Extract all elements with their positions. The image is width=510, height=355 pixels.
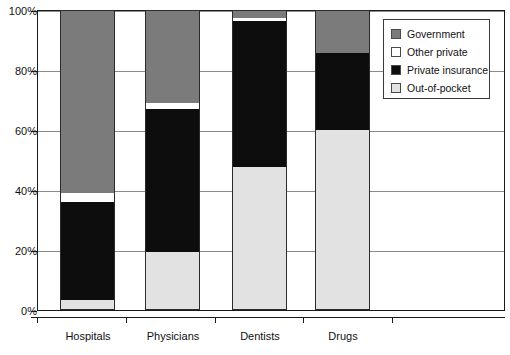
segment-physicians-private-insurance xyxy=(146,109,199,252)
x-tick-mark-1 xyxy=(126,317,127,323)
segment-hospitals-government xyxy=(61,11,114,193)
x-category-label-dentists: Dentists xyxy=(232,330,288,342)
bar-hospitals xyxy=(60,10,115,310)
legend-swatch-private-insurance xyxy=(391,65,401,75)
x-category-label-hospitals: Hospitals xyxy=(60,330,116,342)
x-tick-mark-2 xyxy=(215,317,216,323)
y-axis: 100% 80% 60% 40% 20% 0% xyxy=(0,0,37,355)
segment-hospitals-out-of-pocket xyxy=(61,300,114,309)
segment-drugs-private-insurance xyxy=(316,53,369,130)
x-tick-mark-4 xyxy=(392,317,393,323)
bar-physicians xyxy=(145,10,200,310)
legend-label-private-insurance: Private insurance xyxy=(407,64,488,76)
x-category-label-drugs: Drugs xyxy=(315,330,371,342)
x-axis-line xyxy=(31,317,505,318)
stacked-bar-chart: 100% 80% 60% 40% 20% 0% xyxy=(0,0,510,355)
legend: Government Other private Private insuran… xyxy=(383,19,490,99)
x-tick-mark-3 xyxy=(303,317,304,323)
bar-dentists xyxy=(232,10,287,310)
segment-hospitals-private-insurance xyxy=(61,202,114,300)
segment-dentists-government xyxy=(233,11,286,18)
legend-swatch-government xyxy=(391,29,401,39)
y-tick-mark-0 xyxy=(31,311,37,312)
segment-dentists-private-insurance xyxy=(233,21,286,167)
legend-item-private-insurance: Private insurance xyxy=(391,61,489,79)
bar-drugs xyxy=(315,10,370,310)
legend-item-out-of-pocket: Out-of-pocket xyxy=(391,79,489,97)
segment-drugs-out-of-pocket xyxy=(316,130,369,309)
legend-item-government: Government xyxy=(391,25,489,43)
legend-swatch-out-of-pocket xyxy=(391,83,401,93)
segment-dentists-out-of-pocket xyxy=(233,167,286,309)
segment-drugs-government xyxy=(316,11,369,53)
segment-hospitals-other-private xyxy=(61,193,114,202)
legend-label-other-private: Other private xyxy=(407,46,468,58)
x-tick-mark-0 xyxy=(37,317,38,323)
legend-swatch-other-private xyxy=(391,47,401,57)
segment-physicians-out-of-pocket xyxy=(146,252,199,309)
x-category-label-physicians: Physicians xyxy=(145,330,201,342)
legend-item-other-private: Other private xyxy=(391,43,489,61)
legend-label-government: Government xyxy=(407,28,465,40)
segment-physicians-government xyxy=(146,11,199,103)
legend-label-out-of-pocket: Out-of-pocket xyxy=(407,82,471,94)
